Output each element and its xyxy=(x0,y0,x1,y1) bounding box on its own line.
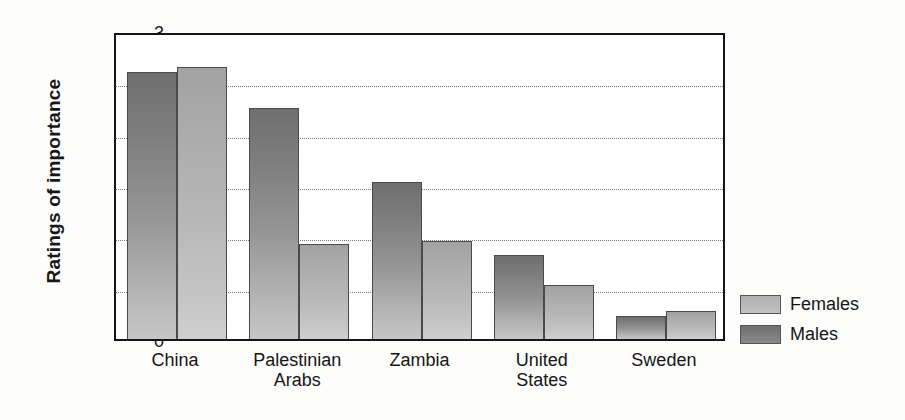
x-label-china: China xyxy=(114,350,236,370)
x-label-united-states: UnitedStates xyxy=(481,350,603,390)
bar-females-united-states xyxy=(544,285,594,339)
bar-females-sweden xyxy=(666,311,716,339)
bar-females-zambia xyxy=(422,241,472,339)
legend-label-females: Females xyxy=(790,294,859,315)
x-label-line: United xyxy=(481,350,603,370)
plot-inner xyxy=(116,35,723,339)
males-swatch-icon xyxy=(740,325,781,344)
legend: Females Males xyxy=(740,289,859,349)
x-label-zambia: Zambia xyxy=(358,350,480,370)
x-label-line: China xyxy=(114,350,236,370)
bar-males-zambia xyxy=(372,182,422,339)
bar-males-china xyxy=(127,72,177,339)
bar-males-sweden xyxy=(616,316,666,339)
legend-label-males: Males xyxy=(790,324,838,345)
x-label-palestinian-arabs: PalestinianArabs xyxy=(236,350,358,390)
females-swatch-icon xyxy=(740,295,781,314)
x-label-line: Zambia xyxy=(358,350,480,370)
plot-area xyxy=(114,33,725,341)
x-label-line: Palestinian xyxy=(236,350,358,370)
legend-item-males: Males xyxy=(740,319,859,349)
legend-item-females: Females xyxy=(740,289,859,319)
bar-males-palestinian-arabs xyxy=(249,108,299,339)
bar-chart-figure: Ratings of importance 32.521.510.50 Chin… xyxy=(0,0,905,420)
bar-females-china xyxy=(177,67,227,339)
bar-females-palestinian-arabs xyxy=(299,244,349,339)
x-label-line: Arabs xyxy=(236,370,358,390)
x-label-line: States xyxy=(481,370,603,390)
bar-males-united-states xyxy=(494,255,544,339)
x-label-line: Sweden xyxy=(603,350,725,370)
x-label-sweden: Sweden xyxy=(603,350,725,370)
